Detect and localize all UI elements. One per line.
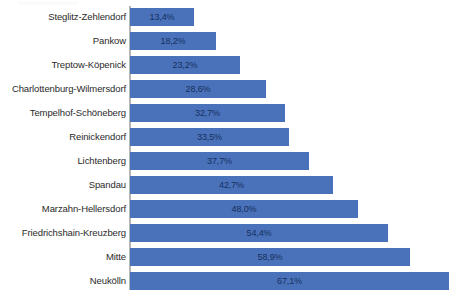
chart-row: Spandau42,7%: [0, 173, 456, 197]
bar-value-label: 33,5%: [130, 128, 289, 146]
chart-row: Friedrichshain-Kreuzberg54,4%: [0, 221, 456, 245]
bar-value-label: 28,6%: [130, 80, 266, 98]
bar-container: 28,6%: [130, 80, 266, 98]
bar-container: 18,2%: [130, 32, 216, 50]
bar-value-label: 58,9%: [130, 248, 410, 266]
bar-value-label: 54,4%: [130, 224, 388, 242]
bar-container: 33,5%: [130, 128, 289, 146]
bar-container: 67,1%: [130, 272, 449, 290]
category-label: Spandau: [89, 173, 126, 197]
category-label: Steglitz-Zehlendorf: [48, 5, 126, 29]
chart-row: Tempelhof-Schöneberg32,7%: [0, 101, 456, 125]
bar-value-label: 67,1%: [130, 272, 449, 290]
category-label: Lichtenberg: [77, 149, 126, 173]
bar-container: 54,4%: [130, 224, 388, 242]
chart-row: Lichtenberg37,7%: [0, 149, 456, 173]
bar-value-label: 32,7%: [130, 104, 285, 122]
bar-container: 37,7%: [130, 152, 309, 170]
bar-value-label: 48,0%: [130, 200, 358, 218]
chart-row: Treptow-Köpenick23,2%: [0, 53, 456, 77]
bar-chart: Steglitz-Zehlendorf13,4%Pankow18,2%Trept…: [0, 0, 456, 290]
bar-container: 13,4%: [130, 8, 194, 26]
bar-value-label: 42,7%: [130, 176, 333, 194]
bar-container: 23,2%: [130, 56, 240, 74]
bar-container: 42,7%: [130, 176, 333, 194]
bar[interactable]: 48,0%: [130, 200, 358, 218]
bar-container: 58,9%: [130, 248, 410, 266]
bar[interactable]: 67,1%: [130, 272, 449, 290]
bar-value-label: 37,7%: [130, 152, 309, 170]
category-label: Reinickendorf: [69, 125, 126, 149]
chart-row: Reinickendorf33,5%: [0, 125, 456, 149]
bar[interactable]: 54,4%: [130, 224, 388, 242]
bar-container: 32,7%: [130, 104, 285, 122]
bar[interactable]: 28,6%: [130, 80, 266, 98]
category-label: Charlottenburg-Wilmersdorf: [12, 77, 126, 101]
bar[interactable]: 18,2%: [130, 32, 216, 50]
chart-row: Mitte58,9%: [0, 245, 456, 269]
category-label: Mitte: [106, 245, 126, 269]
bar-value-label: 23,2%: [130, 56, 240, 74]
bar[interactable]: 32,7%: [130, 104, 285, 122]
category-label: Tempelhof-Schöneberg: [30, 101, 126, 125]
chart-row: Charlottenburg-Wilmersdorf28,6%: [0, 77, 456, 101]
category-label: Neukölln: [90, 269, 126, 290]
chart-row: Steglitz-Zehlendorf13,4%: [0, 5, 456, 29]
category-label: Pankow: [93, 29, 126, 53]
chart-row: Marzahn-Hellersdorf48,0%: [0, 197, 456, 221]
bar[interactable]: 37,7%: [130, 152, 309, 170]
bar[interactable]: 33,5%: [130, 128, 289, 146]
bar-container: 48,0%: [130, 200, 358, 218]
chart-row: Neukölln67,1%: [0, 269, 456, 290]
chart-rows: Steglitz-Zehlendorf13,4%Pankow18,2%Trept…: [0, 0, 456, 290]
bar[interactable]: 58,9%: [130, 248, 410, 266]
bar[interactable]: 23,2%: [130, 56, 240, 74]
bar-value-label: 13,4%: [130, 8, 194, 26]
chart-row: Pankow18,2%: [0, 29, 456, 53]
bar[interactable]: 42,7%: [130, 176, 333, 194]
bar-value-label: 18,2%: [130, 32, 216, 50]
category-label: Marzahn-Hellersdorf: [42, 197, 126, 221]
category-label: Friedrichshain-Kreuzberg: [22, 221, 126, 245]
category-label: Treptow-Köpenick: [51, 53, 126, 77]
bar[interactable]: 13,4%: [130, 8, 194, 26]
